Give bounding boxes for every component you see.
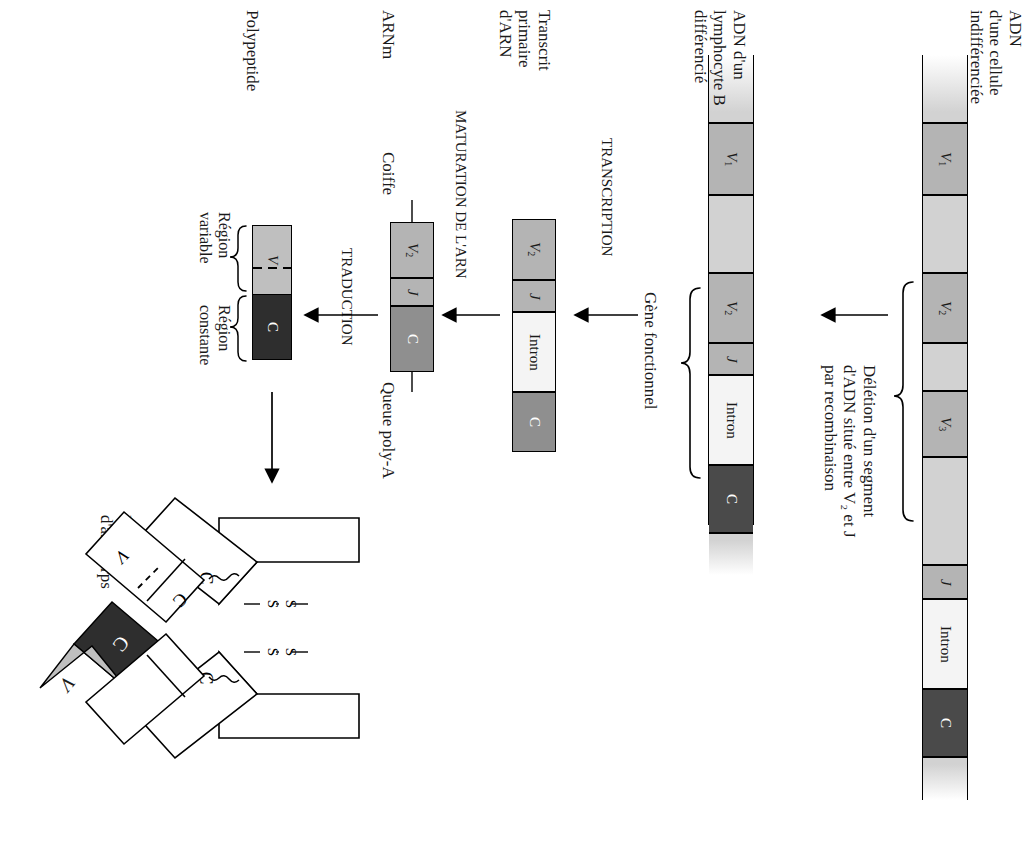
- bcell-seg-spacer-1: [709, 195, 753, 273]
- ss-letter-4: S: [283, 648, 299, 656]
- polypeptide-seg-C-label: C: [264, 322, 281, 332]
- polypeptide-label: Polypeptide: [242, 10, 262, 140]
- bcell-seg-V2: V2: [709, 273, 753, 343]
- germline-seg-V1: V1: [923, 123, 967, 195]
- germline-seg-J-label: J: [937, 579, 954, 586]
- mrna-seg-J: J: [391, 278, 433, 306]
- bcell-seg-spacer-bottom: [709, 533, 753, 575]
- germline-seg-spacer-2: [923, 343, 967, 391]
- transcript-seg-J: J: [513, 280, 555, 312]
- germline-seg-spacer-1: [923, 195, 967, 273]
- light-chain-shaded-top-V: [40, 644, 126, 688]
- polypeptide-seg-V: V: [253, 226, 291, 294]
- germline-seg-spacer-bottom: [923, 757, 967, 800]
- bcell-seg-V2-label: V2: [723, 301, 740, 315]
- disulfide-bond-letters: S S S S: [265, 600, 299, 656]
- bcell-dna-label: ADN d'un lymphocyte B différencié: [690, 10, 749, 200]
- antibody-molecule: [137, 498, 359, 758]
- polypeptide-seg-V-label: V: [264, 255, 281, 264]
- bcell-seg-C-label: C: [723, 494, 740, 504]
- mrna-seg-V2: V2: [391, 223, 433, 278]
- transcript-seg-J-label: J: [526, 293, 543, 300]
- light-chain-outline-bottom-body: [86, 634, 204, 744]
- germline-seg-intron: Intron: [923, 599, 967, 689]
- germline-seg-spacer-3: [923, 457, 967, 565]
- antibody-shaded-V-letter: V: [55, 672, 80, 696]
- germline-dna-label: ADN d'une cellule indifférenciée: [966, 10, 1025, 200]
- deletion-brace: [894, 282, 913, 521]
- ss-letter-2: S: [283, 600, 299, 608]
- transcription-label: TRANSCRIPTION: [598, 138, 615, 313]
- germline-seg-spacer-top: [923, 55, 967, 123]
- rna-maturation-label: MATURATION DE L'ARN: [452, 110, 469, 345]
- mrna-strip: V2 J C: [390, 222, 434, 372]
- cap-label: Coiffe: [378, 152, 398, 214]
- ss-letter-3: S: [265, 648, 281, 656]
- light-chain-outline-C-letter: C: [169, 589, 192, 612]
- heavy-chain-top: [219, 518, 359, 604]
- mrna-seg-C-label: C: [404, 334, 421, 344]
- germline-dna-strip: V1 V2 V3 J Intron C: [922, 55, 968, 800]
- disulfide-inner-dashes: [276, 604, 279, 652]
- germline-seg-V2-label: V2: [937, 301, 954, 315]
- germline-seg-J: J: [923, 565, 967, 599]
- heavy-chain-bottom-C-letter: C: [196, 672, 217, 685]
- bcell-seg-C: C: [709, 465, 753, 533]
- disulfide-bonds: [244, 604, 308, 652]
- primary-transcript-strip: V2 J Intron C: [512, 219, 556, 452]
- light-chain-disulfide-squiggles: [209, 574, 239, 683]
- germline-seg-V1-label: V1: [937, 152, 954, 166]
- mrna-seg-C: C: [391, 306, 433, 371]
- germline-seg-V3: V3: [923, 391, 967, 457]
- antibody-shaded-C-letter: C: [108, 632, 134, 657]
- germline-seg-V2: V2: [923, 273, 967, 343]
- bcell-seg-intron: Intron: [709, 375, 753, 465]
- deletion-label: Délétion d'un segment d'ADN situé entre …: [820, 365, 879, 675]
- bcell-seg-J-label: J: [723, 356, 740, 363]
- transcript-seg-intron-label: Intron: [526, 334, 543, 371]
- bcell-seg-J: J: [709, 343, 753, 375]
- mrna-seg-V2-label: V2: [404, 243, 421, 257]
- transcript-seg-intron: Intron: [513, 312, 555, 392]
- transcript-seg-V2-label: V2: [526, 242, 543, 256]
- antibody-chain-letters: C C: [196, 572, 217, 685]
- light-chain-outline-divider: [147, 559, 185, 601]
- primary-transcript-label: Transcrit primaire d'ARN: [495, 10, 554, 185]
- mrna-seg-J-label: J: [404, 289, 421, 296]
- germline-seg-V3-label: V3: [937, 417, 954, 431]
- germline-seg-C-label: C: [937, 718, 954, 728]
- mrna-label: ARNm: [378, 10, 398, 90]
- heavy-chain-bottom: [219, 652, 359, 738]
- ss-letter-1: S: [265, 600, 281, 608]
- figure-canvas: V1 V2 V3 J Intron C ADN d'une cellule in…: [0, 0, 1030, 857]
- translation-label: TRADUCTION: [338, 248, 355, 378]
- antibody-label: Molécule d'anticorps: [96, 515, 135, 625]
- heavy-chain-bottom-arm: [137, 652, 257, 758]
- functional-gene-label: Gène fonctionnel: [640, 292, 660, 492]
- light-chain-outline-hinge-dash: [138, 566, 160, 588]
- variable-region-label: Région variable: [196, 212, 233, 302]
- germline-seg-intron-label: Intron: [937, 626, 954, 663]
- germline-seg-C: C: [923, 689, 967, 757]
- functional-gene-brace: [681, 288, 700, 478]
- transcript-seg-V2: V2: [513, 220, 555, 280]
- poly-a-tail-label: Queue poly-A: [378, 382, 398, 512]
- light-chain-outline-bottom: [86, 634, 204, 744]
- constant-region-label: Région constante: [196, 305, 233, 410]
- transcript-seg-C-label: C: [526, 417, 543, 427]
- light-chain-outline-bottom-divider: [147, 655, 185, 697]
- transcript-seg-C: C: [513, 392, 555, 451]
- bcell-seg-intron-label: Intron: [723, 402, 740, 439]
- heavy-chain-top-arm: [137, 498, 257, 604]
- heavy-chain-top-C-letter: C: [196, 572, 217, 585]
- polypeptide-seg-C: C: [253, 294, 291, 359]
- polypeptide-strip: V C: [252, 225, 292, 360]
